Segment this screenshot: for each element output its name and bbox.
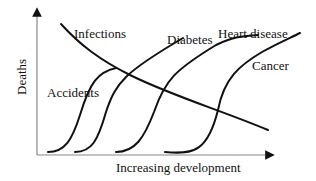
label-cancer: Cancer [252, 58, 289, 73]
label-accidents: Accidents [47, 85, 99, 100]
label-infections: Infections [74, 26, 126, 41]
chart-canvas: Infections Accidents Diabetes Heart dise… [0, 0, 316, 181]
series-cancer-line [165, 33, 300, 153]
label-heart-disease: Heart disease [218, 26, 288, 41]
y-axis-label: Deaths [14, 59, 29, 95]
label-diabetes: Diabetes [167, 32, 212, 47]
x-axis-label: Increasing development [116, 160, 241, 175]
series-heart-disease-line [116, 35, 258, 152]
chart: Infections Accidents Diabetes Heart dise… [0, 0, 316, 181]
